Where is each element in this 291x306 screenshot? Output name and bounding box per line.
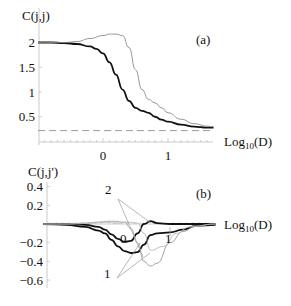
ytick-labels-a: 0.511.52 xyxy=(19,35,35,124)
xlabel-a: Log10(D) xyxy=(224,134,272,151)
ytick-label: 0.5 xyxy=(19,109,35,124)
xtick-labels-a: 01 xyxy=(100,148,172,163)
xlabel-b: Log10(D) xyxy=(224,217,272,234)
ytick-label: 0.4 xyxy=(27,179,44,194)
ytick-label: −0.6 xyxy=(19,273,43,288)
ytick-label: −0.4 xyxy=(19,254,43,269)
figure: C(j,j) 0.511.52 01 (a) Log10(D) C(j,j') … xyxy=(0,0,291,306)
axes-a xyxy=(39,8,213,145)
ytick-labels-b: 0.40.2−0.2−0.4−0.6 xyxy=(19,179,43,288)
curve-label: 1 xyxy=(104,266,111,281)
xtick-label: 1 xyxy=(165,148,172,163)
panel-label-a: (a) xyxy=(196,32,210,47)
series-thick xyxy=(38,43,214,128)
axes-b xyxy=(47,182,213,288)
curve-label: 1 xyxy=(165,231,172,246)
ytick-label: 1 xyxy=(29,85,36,100)
leader-line xyxy=(117,253,150,278)
series-a xyxy=(38,34,214,131)
series-thin xyxy=(38,34,214,127)
xtick-label: 0 xyxy=(100,148,107,163)
ytick-label: −0.2 xyxy=(19,235,43,250)
panel-a: C(j,j) 0.511.52 01 (a) Log10(D) xyxy=(19,8,272,163)
curve-label: 2 xyxy=(105,182,112,197)
ytick-label: 0.2 xyxy=(27,198,43,213)
panel-label-b: (b) xyxy=(196,186,211,201)
panel-b: C(j,j') 0.40.2−0.2−0.4−0.6 2011 (b) Log1… xyxy=(19,164,272,288)
ytick-label: 2 xyxy=(29,35,36,50)
curve-label: 0 xyxy=(120,231,127,246)
ylabel-b: C(j,j') xyxy=(28,164,58,179)
ylabel-a: C(j,j) xyxy=(22,8,50,23)
ytick-label: 1.5 xyxy=(19,60,35,75)
annotations-b: 2011 xyxy=(104,182,172,281)
series-2b xyxy=(43,222,215,250)
